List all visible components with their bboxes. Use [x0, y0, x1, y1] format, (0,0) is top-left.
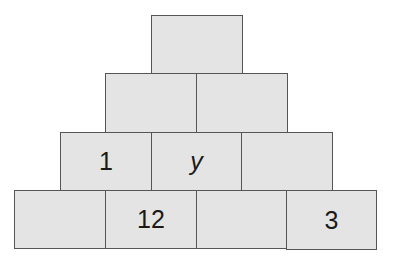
brick-r2-c2: [196, 73, 288, 133]
brick-r2-c1: [105, 73, 197, 133]
brick-r4-c1: [14, 190, 106, 249]
brick-r1-c1: [151, 15, 243, 74]
brick-r4-c4: 3: [286, 190, 377, 250]
brick-r4-c3: [196, 190, 287, 249]
brick-r4-c2: 12: [105, 190, 197, 249]
brick-r3-c2-variable: y: [151, 132, 242, 191]
number-pyramid: 1 y 12 3: [0, 0, 399, 261]
brick-r3-c1: 1: [60, 132, 152, 191]
brick-r3-c3: [241, 132, 333, 191]
